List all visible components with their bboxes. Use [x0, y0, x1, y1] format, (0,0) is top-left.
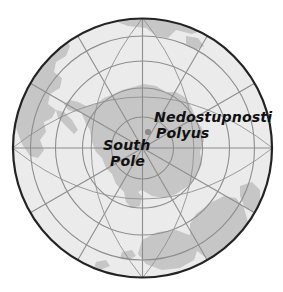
- label-south-pole-line2: Pole: [110, 154, 145, 168]
- label-polyus: Polyus: [156, 126, 209, 140]
- label-nedostupnosti: Nedostupnosti: [154, 110, 272, 124]
- marker-pole-of-inaccessibility[interactable]: [145, 129, 151, 135]
- polar-map: Nedostupnosti Polyus South Pole: [0, 0, 283, 292]
- label-south-pole-line1: South: [103, 138, 150, 152]
